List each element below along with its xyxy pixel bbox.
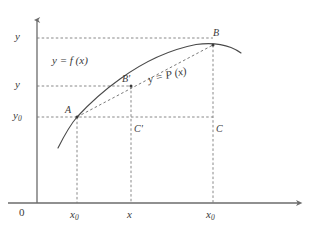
x-axis-tick-label-left: x0 [70, 209, 79, 222]
point-label-B: B [213, 28, 219, 38]
point-label-C: C [216, 124, 223, 134]
point-marker-B [212, 44, 215, 47]
diagram-svg [0, 0, 310, 234]
x-axis-tick-label-mid: x [127, 209, 132, 220]
y-axis-tick-mid-text: y [15, 78, 20, 90]
y-axis-tick-top-text: y [15, 30, 20, 42]
figure-canvas: 0 y y y0 x0 x x0 y = f (x) y = P (x) A B… [0, 0, 310, 234]
y-axis-tick-label-zero: y0 [13, 110, 22, 123]
y-axis-tick-label-top: y [15, 31, 20, 42]
point-label-B-prime: B' [122, 74, 130, 84]
x-axis-tick-right-subscript: 0 [211, 213, 215, 222]
x-axis-tick-left-subscript: 0 [75, 213, 79, 222]
y-axis-tick-label-mid: y [15, 79, 20, 90]
point-label-A: A [65, 105, 71, 115]
function-equation-label: y = f (x) [52, 55, 88, 66]
x-axis-tick-label-right: x0 [206, 209, 215, 222]
x-axis-tick-mid-text: x [127, 208, 132, 220]
point-marker-B-prime [130, 85, 133, 88]
point-label-C-prime: C' [134, 124, 143, 134]
origin-label: 0 [19, 207, 25, 218]
point-marker-A [76, 116, 79, 119]
y-axis-tick-zero-subscript: 0 [18, 114, 22, 123]
chord-line-AB [77, 45, 213, 117]
